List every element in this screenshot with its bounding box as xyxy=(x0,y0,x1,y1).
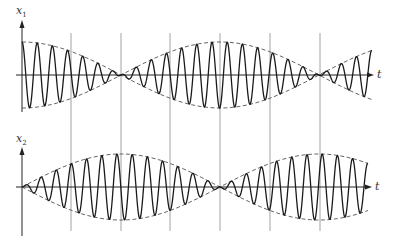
t-axis-label-bottom: t xyxy=(375,181,379,192)
x2-time-arrow-icon xyxy=(365,185,372,190)
x1-label-subscript: 1 xyxy=(22,11,26,19)
x1-lower-envelope xyxy=(22,75,372,108)
x2-label-subscript: 2 xyxy=(22,139,26,147)
x1-axis-arrow-icon xyxy=(20,20,25,28)
diagram-canvas xyxy=(0,0,393,245)
t-axis-label-top: t xyxy=(377,69,381,80)
x2-axis-label: x2 xyxy=(16,133,27,147)
x1-axis-label: x1 xyxy=(16,5,27,19)
beat-diagram: x1 t x2 t xyxy=(0,0,393,245)
x2-axis-arrow-icon xyxy=(20,147,25,155)
x1-upper-envelope xyxy=(22,42,372,75)
